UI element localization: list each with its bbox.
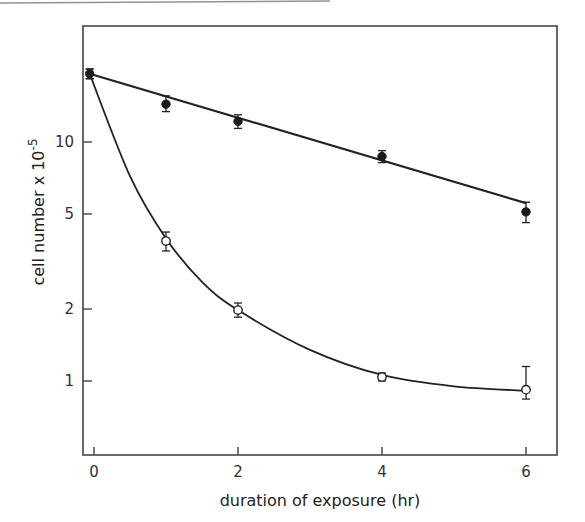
x-tick-label: 6 <box>521 463 531 481</box>
filled-circle-marker <box>234 117 242 125</box>
y-axis-label-text: cell number x 10 <box>29 150 48 285</box>
data-point-filled <box>522 202 530 222</box>
filled-circle-marker <box>162 100 170 108</box>
open-circle-marker <box>522 385 530 393</box>
data-point-open <box>522 366 530 399</box>
fit-curve-open <box>90 74 526 391</box>
fit-line-filled <box>90 74 526 203</box>
axis-ticks <box>83 142 526 455</box>
y-tick-label: 5 <box>64 205 74 223</box>
x-tick-label: 4 <box>377 463 387 481</box>
y-tick-label: 10 <box>55 133 74 151</box>
x-axis-label: duration of exposure (hr) <box>220 491 421 510</box>
data-point-open <box>234 303 242 317</box>
open-circle-marker <box>162 237 170 245</box>
y-axis-label: cell number x 10-5 <box>26 138 48 285</box>
y-tick-label: 1 <box>64 372 74 390</box>
plot-frame <box>83 26 557 455</box>
axis-tick-labels: 024612510 <box>55 133 531 481</box>
filled-circle-marker <box>522 208 530 216</box>
fit-curves <box>90 74 526 391</box>
y-axis-label-exponent: -5 <box>26 138 40 150</box>
filled-circle-marker <box>378 152 386 160</box>
open-circle-marker <box>234 306 242 314</box>
data-point-open <box>378 373 386 381</box>
x-tick-label: 0 <box>89 463 99 481</box>
chart-figure: 024612510 duration of exposure (hr) cell… <box>0 0 585 522</box>
open-circle-marker <box>378 373 386 381</box>
y-tick-label: 2 <box>64 300 74 318</box>
scan-edge-line <box>0 1 330 3</box>
x-tick-label: 2 <box>233 463 243 481</box>
